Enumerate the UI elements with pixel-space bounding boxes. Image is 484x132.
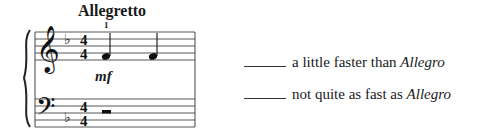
treble-clef-icon: 𝄞 — [36, 25, 60, 74]
half-rest-icon — [102, 110, 111, 114]
answer-line-1: a little faster than Allegro — [244, 54, 445, 71]
answer-blank[interactable] — [244, 65, 286, 67]
bass-staff — [35, 99, 195, 127]
svg-text:4: 4 — [80, 46, 88, 62]
flat-icon: ♭ — [64, 32, 71, 47]
answer-line-2: not quite as fast as Allegro — [244, 86, 451, 103]
answer-blank[interactable] — [244, 97, 286, 99]
brace-icon — [24, 30, 30, 127]
note-icon — [148, 33, 158, 61]
dynamic-marking: mf — [95, 68, 112, 85]
svg-text:4: 4 — [80, 113, 88, 129]
bass-clef-icon: 𝄢 — [36, 92, 55, 127]
note-icon — [101, 33, 111, 61]
flat-icon: ♭ — [64, 110, 71, 125]
